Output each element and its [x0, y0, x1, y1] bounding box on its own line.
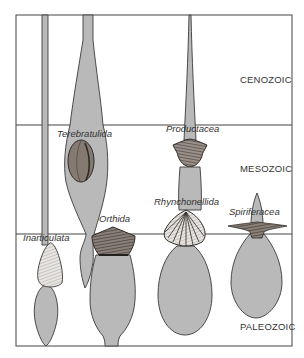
- era-label-mesozoic: MESOZOIC: [240, 163, 292, 174]
- spiriferacea-shell: [228, 222, 287, 238]
- taxon-label-orthida: Orthida: [99, 213, 130, 224]
- era-label-paleozoic: PALEOZOIC: [240, 321, 295, 332]
- terebratulida-shell: [68, 140, 94, 182]
- productacea-shell: [173, 139, 207, 167]
- orthida-spindle: [90, 227, 135, 346]
- rhynchonellida-spindle: [158, 167, 212, 335]
- era-label-cenozoic: CENOZOIC: [240, 74, 292, 85]
- taxon-label-spiriferacea: Spiriferacea: [229, 206, 280, 217]
- taxon-label-inarticulata: Inarticulata: [23, 232, 69, 243]
- taxon-label-terebratulida: Terebratulida: [57, 128, 112, 139]
- taxon-label-rhynchonellida: Rhynchonellida: [154, 196, 219, 207]
- productacea-spindle: [173, 15, 207, 167]
- inarticulata-spindle: [34, 15, 62, 346]
- taxon-label-productacea: Productacea: [166, 123, 219, 134]
- orthida-shell: [92, 227, 135, 255]
- inarticulata-shell: [38, 243, 63, 287]
- brachiopod-spindle-diagram: CENOZOIC MESOZOIC PALEOZOIC Inarticulata…: [0, 0, 304, 358]
